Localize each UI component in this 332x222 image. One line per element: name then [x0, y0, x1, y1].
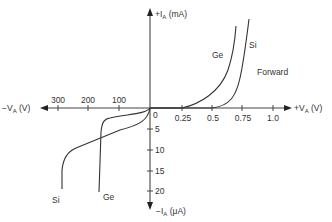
tick-label-10: 10	[155, 145, 165, 155]
forward-region-label: Forward	[257, 67, 288, 77]
tick-label-100: 100	[112, 95, 126, 105]
si-forward-curve	[150, 19, 249, 108]
si-reverse-curve	[62, 108, 150, 189]
si-reverse-label: Si	[52, 195, 60, 205]
tick-label-300: 300	[51, 95, 65, 105]
origin-label: 0	[153, 110, 158, 120]
chart-canvas: 0.25 0.5 0.75 1.0 100 200 300 0 5 10 15 …	[0, 0, 332, 222]
tick-label-15: 15	[155, 166, 165, 176]
tick-label-0.5: 0.5	[207, 113, 219, 123]
tick-label-200: 200	[81, 95, 95, 105]
si-forward-label: Si	[249, 40, 257, 50]
x-axis-left-arrow-icon	[40, 105, 48, 111]
ge-forward-curve	[150, 26, 236, 108]
y-positive-axis-label: +IA (mA)	[155, 9, 187, 20]
diode-iv-chart: 0.25 0.5 0.75 1.0 100 200 300 0 5 10 15 …	[0, 0, 332, 222]
y-axis-up-arrow-icon	[147, 8, 153, 16]
x-axis-right-arrow-icon	[284, 105, 292, 111]
tick-label-20: 20	[155, 186, 165, 196]
tick-label-5: 5	[155, 124, 160, 134]
tick-label-0.25: 0.25	[175, 113, 192, 123]
tick-label-0.75: 0.75	[235, 113, 252, 123]
y-negative-axis-label: −IA (μA)	[156, 206, 186, 217]
ge-forward-label: Ge	[212, 50, 224, 60]
x-positive-axis-label: +VA (V)	[294, 103, 323, 114]
y-axis-down-arrow-icon	[147, 202, 153, 210]
x-negative-axis-label: −VA (V)	[2, 103, 31, 114]
tick-label-1.0: 1.0	[267, 113, 279, 123]
ge-reverse-label: Ge	[103, 192, 115, 202]
